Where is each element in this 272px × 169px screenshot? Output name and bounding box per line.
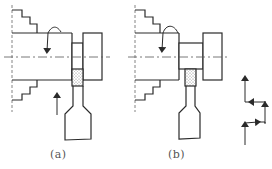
chuck-upper-jaw [12, 10, 37, 33]
caption-a: (a) [50, 148, 67, 161]
caption-b: (b) [168, 148, 185, 161]
rotation-arrow-icon [162, 26, 178, 50]
tool-shank [179, 86, 200, 139]
chuck-lower-jaw [12, 80, 37, 100]
panel-a [4, 5, 110, 140]
groove-neck [179, 43, 203, 69]
workpiece-end-collar [83, 33, 102, 80]
feed-path-arrow-right [245, 122, 258, 123]
chuck-lower-jaw [135, 80, 160, 100]
tool-shank [65, 86, 91, 140]
workpiece-end-collar [203, 33, 222, 80]
feed-path-connector [259, 122, 265, 124]
rotation-arrow-icon [47, 27, 61, 51]
chuck-upper-jaw [135, 10, 160, 33]
feed-path-sketch [245, 78, 265, 145]
cutting-insert [185, 69, 196, 86]
cutting-insert [72, 69, 83, 86]
panel-b [128, 5, 230, 139]
lathe-diagram [0, 0, 272, 169]
